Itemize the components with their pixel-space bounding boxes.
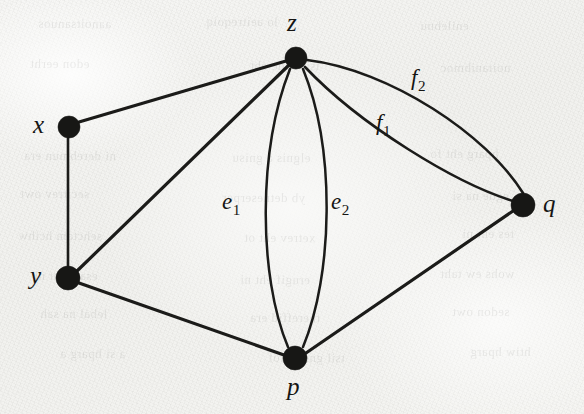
graph-edge-e2	[303, 69, 327, 347]
edge-label-base: e	[222, 189, 232, 214]
edge-label-subscript: 2	[418, 77, 426, 94]
graph-vertex-z	[285, 47, 307, 69]
vertex-label-z: z	[287, 10, 297, 35]
edge-label-e1: e1	[222, 190, 240, 217]
vertex-label-x: x	[33, 112, 44, 137]
edge-label-base: f	[376, 110, 382, 135]
graph-vertices-group	[56, 47, 535, 370]
figure-root: aanoitsanuoslo aeitreqoiqenilebnuedon ee…	[0, 0, 584, 414]
graph-vertex-p	[283, 346, 307, 370]
graph-edge-f1	[305, 67, 513, 201]
graph-vertex-q	[511, 193, 535, 217]
edge-label-base: f	[411, 65, 417, 90]
graph-edge-pq	[306, 211, 513, 353]
edge-label-subscript: 1	[233, 201, 241, 218]
graph-edge-xz	[79, 61, 286, 122]
graph-vertex-y	[56, 266, 80, 290]
edge-label-subscript: 2	[342, 201, 350, 218]
graph-edge-yp	[79, 283, 284, 355]
graph-edge-yz	[77, 66, 288, 271]
edge-label-e2: e2	[331, 190, 349, 217]
graph-edges-group	[68, 60, 523, 355]
vertex-label-p: p	[287, 374, 300, 399]
graph-vertex-x	[58, 116, 80, 138]
edge-label-f1: f1	[376, 111, 390, 138]
graph-canvas	[0, 0, 584, 414]
graph-edge-e1	[266, 69, 290, 347]
edge-label-f2: f2	[411, 66, 425, 93]
edge-label-base: e	[331, 189, 341, 214]
vertex-label-y: y	[30, 263, 41, 288]
vertex-label-q: q	[543, 191, 556, 216]
edge-label-subscript: 1	[383, 122, 391, 139]
